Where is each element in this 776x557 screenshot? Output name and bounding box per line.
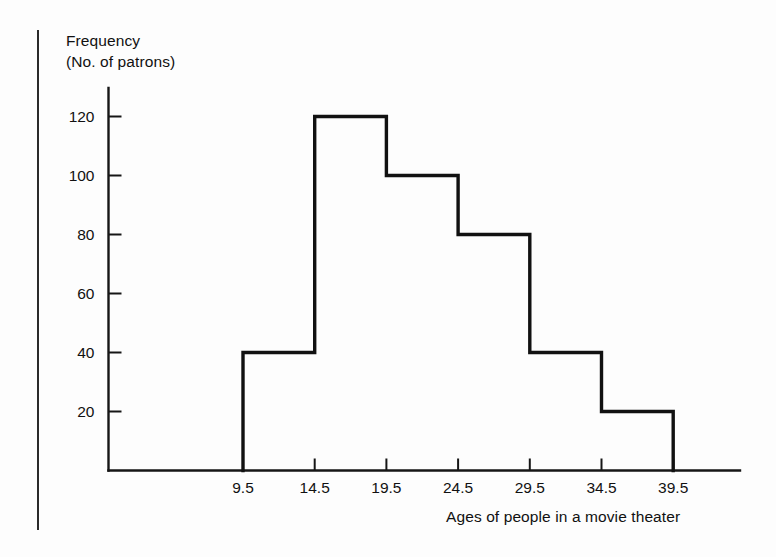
histogram-outline-group — [243, 117, 673, 471]
y-tick-label: 120 — [69, 108, 95, 125]
x-axis-caption: Ages of people in a movie theater — [446, 508, 680, 526]
histogram-plot: 12010080604020 9.514.519.524.529.534.539… — [0, 0, 776, 557]
x-tick-label: 29.5 — [515, 479, 545, 496]
histogram-outline — [243, 117, 673, 471]
x-tick-group: 9.514.519.524.529.534.539.5 — [232, 459, 688, 496]
x-tick-label: 14.5 — [300, 479, 330, 496]
figure-root: Frequency (No. of patrons) 1201008060402… — [0, 0, 776, 557]
x-tick-label: 24.5 — [443, 479, 473, 496]
y-tick-label: 20 — [77, 403, 95, 420]
y-tick-label: 60 — [77, 285, 95, 302]
y-tick-group: 12010080604020 — [69, 108, 122, 420]
x-tick-label: 19.5 — [371, 479, 401, 496]
y-tick-label: 80 — [77, 226, 95, 243]
x-tick-label: 34.5 — [586, 479, 616, 496]
x-tick-label: 9.5 — [232, 479, 254, 496]
y-tick-label: 100 — [69, 167, 95, 184]
y-tick-label: 40 — [77, 344, 95, 361]
x-tick-label: 39.5 — [658, 479, 688, 496]
